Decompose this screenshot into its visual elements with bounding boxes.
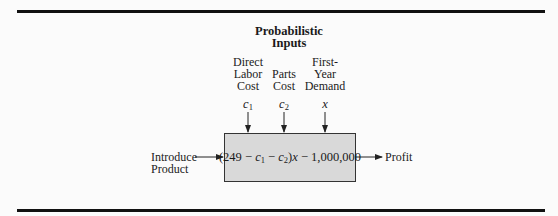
decision-label: Introduce Product: [151, 151, 197, 175]
output-label: Profit: [385, 151, 412, 163]
formula-open: (249 −: [219, 150, 255, 164]
arrows-layer: [0, 0, 558, 216]
model-box: (249 − c1 − c2)x − 1,000,000: [224, 133, 356, 182]
formula-minus: −: [265, 150, 278, 164]
decision-line-2: Product: [151, 163, 197, 175]
formula-tail: − 1,000,000: [298, 150, 361, 164]
model-formula: (249 − c1 − c2)x − 1,000,000: [219, 150, 361, 165]
bottom-rule: [17, 209, 545, 212]
